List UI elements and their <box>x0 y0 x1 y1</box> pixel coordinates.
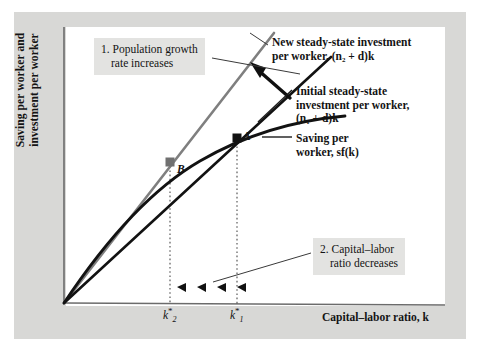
annotation-capital-labor-ratio-line2: ratio decreases <box>320 256 398 270</box>
series-label-initial-investment-line1: Initial steady-state <box>296 85 409 99</box>
annotation-population-growth-line1: 1. Population growth <box>101 42 198 56</box>
marker-point-b <box>166 158 175 167</box>
line-initial-investment <box>64 57 331 303</box>
x-tick-label-k1: k*1 <box>230 306 244 324</box>
series-label-initial-investment-line3: (n₁ + d)k <box>296 112 409 126</box>
series-label-new-investment: New steady-state investment per worker, … <box>272 36 411 63</box>
y-axis-title-line2: investment per worker <box>27 15 41 165</box>
motion-arrow-2 <box>197 283 206 292</box>
x-axis-title: Capital–labor ratio, k <box>322 311 429 323</box>
leader-new-investment <box>250 33 268 45</box>
x-tick-label-k2: k*2 <box>163 306 177 324</box>
motion-arrow-row <box>177 283 246 292</box>
leader-initial-investment <box>258 90 292 122</box>
series-label-initial-investment: Initial steady-state investment per work… <box>296 85 409 126</box>
motion-arrow-4 <box>237 283 246 292</box>
series-label-initial-investment-line2: investment per worker, <box>296 99 409 113</box>
series-label-saving-line2: worker, sf(k) <box>296 146 359 160</box>
point-label-b: B <box>177 163 185 175</box>
marker-point-a <box>233 134 242 143</box>
x-tick-k1-sub: 1 <box>240 315 244 324</box>
y-axis-title-line1: Saving per worker and <box>13 15 27 165</box>
annotation-capital-labor-ratio-line1: 2. Capital–labor <box>320 242 398 256</box>
motion-arrow-1 <box>177 283 186 292</box>
y-axis-title: Saving per worker and investment per wor… <box>13 15 41 165</box>
leader-callout-2 <box>213 253 311 282</box>
arrow-to-new-line <box>250 62 290 98</box>
x-axis-line <box>64 303 445 305</box>
annotation-population-growth-line2: rate increases <box>101 56 198 70</box>
series-label-saving-line1: Saving per <box>296 132 359 146</box>
annotation-capital-labor-ratio: 2. Capital–labor ratio decreases <box>313 238 405 275</box>
solow-model-figure: Saving per worker and investment per wor… <box>0 0 480 364</box>
annotation-population-growth: 1. Population growth rate increases <box>94 38 205 75</box>
motion-arrow-3 <box>217 283 226 292</box>
series-label-saving: Saving per worker, sf(k) <box>296 132 359 159</box>
point-label-a: A <box>243 130 251 142</box>
x-tick-k2-sub: 2 <box>173 315 177 324</box>
series-label-new-investment-line1: New steady-state investment <box>272 36 411 50</box>
series-label-new-investment-line2: per worker, (n₂ + d)k <box>272 50 411 64</box>
